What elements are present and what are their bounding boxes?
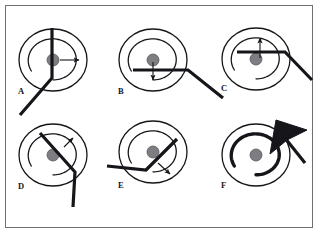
panel-d: D	[18, 124, 87, 207]
needle-c	[237, 52, 312, 80]
panel-label-a: A	[18, 86, 25, 96]
cursor-tail-f	[285, 138, 305, 163]
panel-e: E	[107, 121, 187, 190]
panel-label-c: C	[221, 83, 227, 93]
panel-label-f: F	[221, 180, 226, 190]
panel-label-d: D	[18, 181, 24, 191]
panel-c: C	[221, 28, 312, 93]
needle-e	[107, 139, 177, 170]
cursor-arrowhead-f	[270, 120, 307, 154]
panel-b: B	[118, 29, 223, 98]
needle-d	[40, 133, 75, 207]
figure-panels: ABCDEF	[0, 0, 324, 235]
panel-a: A	[18, 28, 87, 115]
panel-f: F	[221, 120, 307, 190]
needle-b	[133, 70, 223, 98]
nucleus-e	[147, 146, 159, 158]
needle-a	[20, 28, 52, 115]
nucleus-f	[250, 149, 262, 161]
panel-label-e: E	[118, 180, 124, 190]
direction-arrow-e	[158, 163, 170, 174]
panel-label-b: B	[118, 86, 124, 96]
figure-canvas: ABCDEF	[0, 0, 324, 235]
